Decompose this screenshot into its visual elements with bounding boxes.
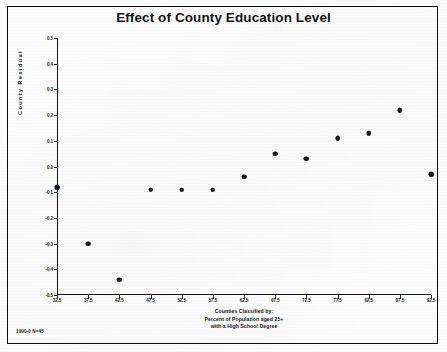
y-tick-label: -0.5 xyxy=(45,293,53,298)
y-tick-label: 0.0 xyxy=(47,164,53,169)
y-tick xyxy=(54,38,58,39)
x-tick-label: 32.5 xyxy=(53,298,62,303)
y-tick xyxy=(54,269,58,270)
data-point xyxy=(86,241,91,246)
y-tick-label: -0.4 xyxy=(45,267,53,272)
data-point xyxy=(242,174,247,179)
data-point xyxy=(304,156,309,161)
data-point xyxy=(148,187,153,192)
y-tick xyxy=(54,64,58,65)
x-tick-label: 52.5 xyxy=(177,298,186,303)
y-tick-label: 0.2 xyxy=(47,113,53,118)
x-caption-line: with a High School Degree xyxy=(57,323,431,331)
x-caption-line: Percent of Population aged 25+ xyxy=(57,316,431,324)
x-tick-label: 42.5 xyxy=(115,298,124,303)
plot-area: 0.50.40.30.20.10.0-0.1-0.2-0.3-0.4-0.5 3… xyxy=(57,38,431,295)
y-tick xyxy=(54,218,58,219)
y-tick-label: 0.5 xyxy=(47,36,53,41)
x-tick-label: 87.5 xyxy=(396,298,405,303)
x-caption-line: Counties Classified by: xyxy=(57,308,431,316)
x-tick-label: 62.5 xyxy=(240,298,249,303)
y-tick-label: -0.1 xyxy=(45,190,53,195)
data-point xyxy=(211,187,216,192)
x-tick-label: 72.5 xyxy=(302,298,311,303)
y-tick xyxy=(54,167,58,168)
data-point xyxy=(179,187,184,192)
data-point xyxy=(398,108,403,113)
data-point xyxy=(55,185,60,190)
y-tick xyxy=(54,192,58,193)
y-tick xyxy=(54,115,58,116)
data-point xyxy=(366,131,371,136)
figure-page: Effect of County Education Level County … xyxy=(0,0,447,352)
data-point xyxy=(429,172,434,177)
y-tick-label: -0.3 xyxy=(45,241,53,246)
x-tick-label: 67.5 xyxy=(271,298,280,303)
chart-title: Effect of County Education Level xyxy=(0,10,447,25)
x-tick-label: 92.5 xyxy=(427,298,436,303)
y-tick xyxy=(54,89,58,90)
y-tick-label: 0.1 xyxy=(47,138,53,143)
y-tick-label: 0.3 xyxy=(47,87,53,92)
y-tick xyxy=(54,141,58,142)
y-tick-label: 0.4 xyxy=(47,61,53,66)
y-tick-label: -0.2 xyxy=(45,215,53,220)
x-tick-label: 37.5 xyxy=(84,298,93,303)
x-tick-label: 77.5 xyxy=(333,298,342,303)
y-tick xyxy=(54,244,58,245)
x-tick-label: 82.5 xyxy=(364,298,373,303)
x-tick-label: 57.5 xyxy=(209,298,218,303)
data-point xyxy=(335,136,340,141)
data-point xyxy=(117,277,122,282)
x-tick-label: 47.5 xyxy=(146,298,155,303)
figure-footnote: 1990-0 N=45 xyxy=(16,329,44,334)
data-point xyxy=(273,151,278,156)
y-axis-label: County Residual xyxy=(17,50,23,115)
x-axis-caption: Counties Classified by:Percent of Popula… xyxy=(57,308,431,331)
